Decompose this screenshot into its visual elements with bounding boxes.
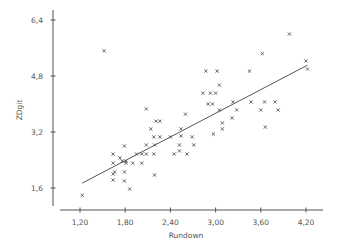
data-point-x-marker — [264, 126, 267, 129]
data-point-x-marker — [263, 100, 266, 103]
data-point-x-marker — [140, 162, 143, 165]
data-point-x-marker — [145, 107, 148, 110]
data-point-x-marker — [145, 143, 148, 146]
data-point-x-marker — [149, 127, 152, 130]
data-point-x-marker — [178, 149, 181, 152]
data-point-x-marker — [124, 162, 127, 165]
data-point-x-marker — [214, 92, 217, 95]
data-point-x-marker — [154, 120, 157, 123]
data-point-x-marker — [248, 70, 251, 73]
data-point-x-marker — [204, 70, 207, 73]
data-point-x-marker — [249, 100, 252, 103]
data-point-x-marker — [191, 135, 194, 138]
data-point-x-marker — [158, 135, 161, 138]
y-tick-label: 6,4 — [31, 16, 43, 25]
data-point-x-marker — [123, 179, 126, 182]
data-point-x-marker — [231, 116, 234, 119]
data-point-x-marker — [235, 108, 238, 111]
data-point-x-marker — [259, 108, 262, 111]
data-point-x-marker — [118, 156, 121, 159]
x-axis-title: Rundown — [169, 231, 204, 240]
y-tick-label: 3,2 — [31, 128, 43, 137]
regression-line — [82, 65, 307, 183]
data-point-x-marker — [103, 49, 106, 52]
fit-line — [82, 65, 307, 183]
data-point-x-marker — [179, 127, 182, 130]
data-point-x-marker — [153, 173, 156, 176]
data-point-x-marker — [152, 152, 155, 155]
data-point-x-marker — [218, 84, 221, 87]
data-point-x-marker — [221, 121, 224, 124]
data-point-x-marker — [306, 67, 309, 70]
data-point-x-marker — [184, 113, 187, 116]
data-point-x-marker — [145, 152, 148, 155]
x-tick-label: 4,20 — [298, 218, 315, 227]
data-point-x-marker — [112, 152, 115, 155]
data-point-x-marker — [288, 32, 291, 35]
x-tick-label: 3,00 — [207, 218, 224, 227]
data-point-x-marker — [277, 108, 280, 111]
data-point-x-marker — [112, 178, 115, 181]
data-point-x-marker — [274, 100, 277, 103]
scatter-chart: 1,201,802,403,003,604,201,63,24,86,4 Run… — [0, 0, 341, 245]
data-points — [81, 32, 309, 197]
y-axis-title: ZDgit — [15, 100, 24, 121]
data-point-x-marker — [231, 100, 234, 103]
data-point-x-marker — [152, 135, 155, 138]
x-tick-label: 2,40 — [162, 218, 179, 227]
data-point-x-marker — [192, 143, 195, 146]
x-tick-label: 1,80 — [117, 218, 134, 227]
data-point-x-marker — [209, 92, 212, 95]
data-point-x-marker — [123, 144, 126, 147]
data-point-x-marker — [201, 92, 204, 95]
data-point-x-marker — [179, 134, 182, 137]
x-tick-label: 1,20 — [72, 218, 89, 227]
data-point-x-marker — [185, 152, 188, 155]
data-point-x-marker — [173, 152, 176, 155]
data-point-x-marker — [128, 187, 131, 190]
data-point-x-marker — [212, 133, 215, 136]
data-point-x-marker — [123, 170, 126, 173]
axes: 1,201,802,403,003,604,201,63,24,86,4 — [31, 10, 323, 227]
data-point-x-marker — [178, 143, 181, 146]
data-point-x-marker — [211, 102, 214, 105]
data-point-x-marker — [261, 52, 264, 55]
data-point-x-marker — [206, 102, 209, 105]
data-point-x-marker — [131, 162, 134, 165]
x-tick-label: 3,60 — [252, 218, 269, 227]
y-tick-label: 1,6 — [31, 184, 43, 193]
data-point-x-marker — [81, 194, 84, 197]
data-point-x-marker — [158, 120, 161, 123]
data-point-x-marker — [221, 127, 224, 130]
data-point-x-marker — [304, 59, 307, 62]
data-point-x-marker — [112, 162, 115, 165]
data-point-x-marker — [216, 70, 219, 73]
y-tick-label: 4,8 — [31, 72, 43, 81]
